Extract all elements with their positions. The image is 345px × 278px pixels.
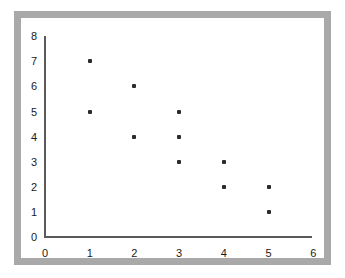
- x-tick-label-6: 6: [306, 248, 320, 259]
- x-tick-label-3: 3: [172, 248, 186, 259]
- data-point: [267, 210, 271, 214]
- y-tick-label-1: 1: [23, 207, 37, 218]
- x-tick-label-4: 4: [217, 248, 231, 259]
- y-tick-label-3: 3: [23, 157, 37, 168]
- y-tick-label-5: 5: [23, 107, 37, 118]
- data-point: [177, 160, 181, 164]
- y-tick-label-2: 2: [23, 182, 37, 193]
- data-point: [177, 110, 181, 114]
- x-tick-label-0: 0: [38, 248, 52, 259]
- y-tick-label-4: 4: [23, 132, 37, 143]
- y-axis-line: [44, 36, 46, 238]
- data-point: [267, 185, 271, 189]
- scatter-plot: 012345678 0123456: [0, 0, 345, 278]
- y-tick-label-6: 6: [23, 81, 37, 92]
- data-point: [177, 135, 181, 139]
- data-point: [88, 110, 92, 114]
- y-tick-label-8: 8: [23, 31, 37, 42]
- data-point: [222, 185, 226, 189]
- x-axis-line: [44, 236, 312, 238]
- data-point: [88, 59, 92, 63]
- data-point: [132, 135, 136, 139]
- x-tick-label-5: 5: [262, 248, 276, 259]
- x-tick-label-2: 2: [127, 248, 141, 259]
- data-point: [132, 84, 136, 88]
- y-tick-label-0: 0: [23, 232, 37, 243]
- y-tick-label-7: 7: [23, 56, 37, 67]
- x-tick-label-1: 1: [83, 248, 97, 259]
- data-point: [222, 160, 226, 164]
